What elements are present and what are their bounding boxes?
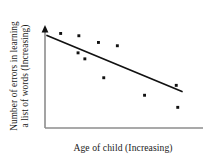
data-point bbox=[102, 76, 105, 79]
scatter-plot-svg bbox=[40, 20, 208, 132]
y-axis-label: Number of errors in learning a list of w… bbox=[0, 18, 40, 134]
data-point bbox=[77, 34, 80, 37]
data-point bbox=[83, 57, 86, 60]
x-axis-label: Age of child (Increasing) bbox=[40, 142, 206, 153]
data-point bbox=[143, 94, 146, 97]
y-axis-arrow-icon bbox=[42, 25, 49, 33]
data-point bbox=[175, 84, 178, 87]
data-point bbox=[97, 41, 100, 44]
data-point-group bbox=[59, 32, 179, 109]
y-axis-label-line-2: a list of words (Increasing) bbox=[20, 25, 31, 128]
trend-line bbox=[47, 36, 182, 92]
chart-screenshot: Number of errors in learning a list of w… bbox=[0, 0, 210, 162]
data-point bbox=[176, 106, 179, 109]
data-point bbox=[116, 44, 119, 47]
y-axis-label-container: Number of errors in learning a list of w… bbox=[0, 0, 40, 150]
data-point bbox=[59, 32, 62, 35]
plot-area bbox=[40, 20, 208, 132]
data-point bbox=[77, 51, 80, 54]
y-axis-label-line-1: Number of errors in learning bbox=[9, 21, 20, 131]
